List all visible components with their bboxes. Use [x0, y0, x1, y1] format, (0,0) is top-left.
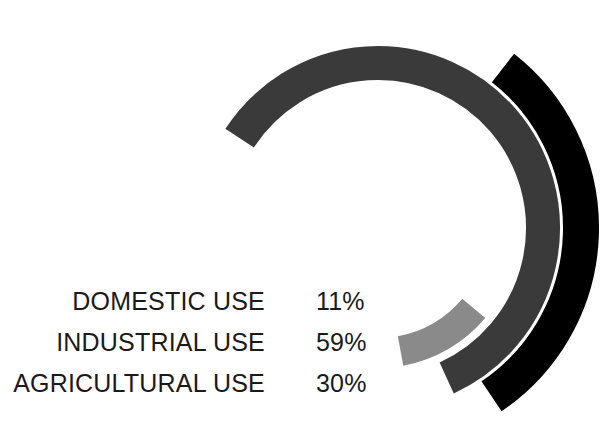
legend-row-industrial: INDUSTRIAL USE 59% [0, 322, 372, 363]
arc-segment-domestic [401, 308, 474, 351]
water-use-radial-chart: DOMESTIC USE 11% INDUSTRIAL USE 59% AGRI… [0, 0, 605, 436]
legend-row-domestic: DOMESTIC USE 11% [0, 281, 372, 322]
legend-label-agricultural: AGRICULTURAL USE [13, 363, 265, 404]
chart-legend: DOMESTIC USE 11% INDUSTRIAL USE 59% AGRI… [0, 281, 372, 404]
legend-label-industrial: INDUSTRIAL USE [56, 322, 265, 363]
legend-value-industrial: 59% [316, 322, 367, 363]
legend-row-agricultural: AGRICULTURAL USE 30% [0, 363, 372, 404]
legend-value-domestic: 11% [316, 281, 365, 322]
legend-label-domestic: DOMESTIC USE [72, 281, 265, 322]
legend-value-agricultural: 30% [316, 363, 367, 404]
